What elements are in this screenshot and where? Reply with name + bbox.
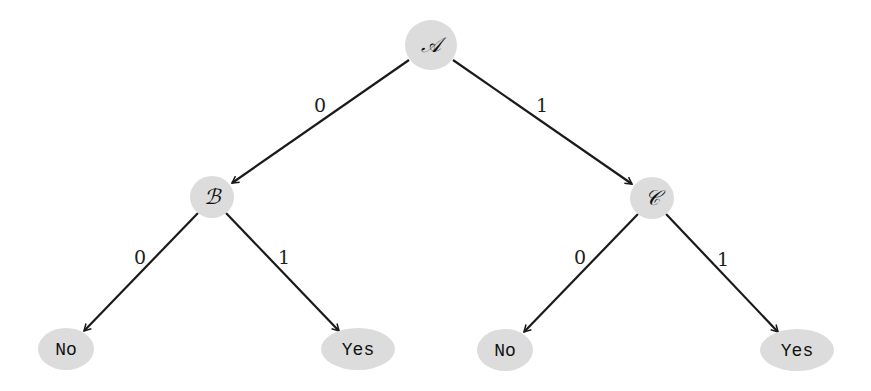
node-label: No	[494, 341, 516, 361]
edge-b-to-b1	[226, 213, 339, 331]
leaf-node-c0: No	[477, 329, 533, 371]
leaf-node-c1: Yes	[760, 329, 834, 371]
node-label: Yes	[342, 340, 374, 360]
edge-label-c-to-c1: 1	[717, 248, 729, 270]
nodes-layer: 𝒜ℬ𝒞NoYesNoYes	[38, 20, 834, 371]
edge-a-to-c	[453, 60, 632, 184]
edge-a-to-b	[232, 60, 409, 183]
edge-label-b-to-b1: 1	[278, 246, 290, 268]
edge-label-c-to-c0: 0	[574, 246, 586, 268]
node-label: No	[55, 340, 77, 360]
edge-label-b-to-b0: 0	[134, 246, 146, 268]
leaf-node-b0: No	[38, 328, 94, 370]
edge-c-to-c0	[524, 214, 638, 332]
node-label: Yes	[781, 341, 813, 361]
decision-tree-diagram: 𝒜ℬ𝒞NoYesNoYes 010101	[0, 0, 871, 391]
decision-node-b: ℬ	[190, 176, 234, 218]
decision-node-a: 𝒜	[405, 20, 457, 70]
node-label: ℬ	[204, 185, 222, 209]
leaf-node-b1: Yes	[321, 328, 395, 370]
edge-label-a-to-c: 1	[536, 94, 548, 116]
edge-label-a-to-b: 0	[314, 94, 326, 116]
edges-layer	[84, 60, 778, 332]
decision-node-c: 𝒞	[630, 177, 674, 219]
edge-c-to-c1	[666, 214, 778, 332]
edge-b-to-b0	[84, 213, 198, 331]
